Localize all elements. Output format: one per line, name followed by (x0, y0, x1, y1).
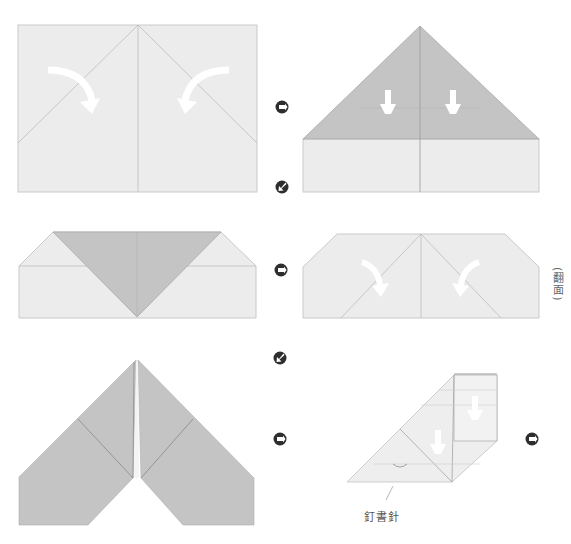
step-4 (303, 234, 539, 318)
next-row-icon (274, 352, 287, 365)
step-5 (19, 360, 254, 525)
left-wing (19, 360, 136, 525)
next-step-icon (274, 433, 287, 446)
flip-over-note: (翻面) (549, 267, 565, 302)
right-wing (138, 360, 254, 525)
next-step-icon (526, 433, 539, 446)
paper-triangle (303, 26, 539, 139)
next-row-icon (276, 181, 289, 194)
next-step-icon (276, 101, 289, 114)
paper-bottom (303, 139, 539, 192)
step-6 (347, 374, 497, 500)
staple-label: 釘書針 (364, 508, 400, 524)
step-1 (18, 25, 257, 192)
staple-pointer-line (386, 486, 393, 500)
paper-rectangle (18, 25, 257, 192)
next-step-icon (275, 264, 288, 277)
step-2 (303, 26, 539, 192)
step-3 (19, 232, 256, 318)
origami-diagram (0, 0, 571, 544)
